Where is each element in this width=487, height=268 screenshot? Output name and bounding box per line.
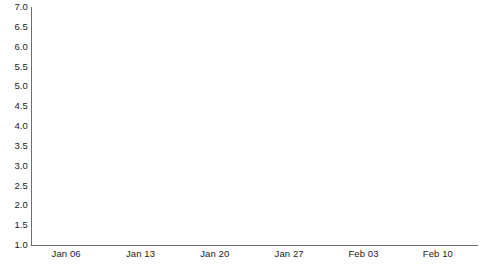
y-axis-tick-label: 6.5: [0, 22, 28, 32]
y-axis-tick-label: 5.0: [0, 81, 28, 91]
x-axis-tick-label: Feb 10: [410, 248, 466, 260]
x-axis-tick-label: Jan 13: [113, 248, 169, 260]
x-axis-tick-label: Jan 27: [261, 248, 317, 260]
y-axis-line: [31, 7, 32, 246]
plot-area: [32, 7, 478, 245]
data-series-layer: [32, 7, 478, 245]
x-axis-tick-label: Jan 06: [38, 248, 94, 260]
y-axis-tick-label: 2.5: [0, 181, 28, 191]
y-axis-tick-label: 4.5: [0, 101, 28, 111]
y-axis-tick-label: 2.0: [0, 200, 28, 210]
chart-figure: 7.06.56.05.55.04.54.03.53.02.52.01.51.0 …: [0, 0, 487, 268]
y-axis-tick-label: 6.0: [0, 42, 28, 52]
x-axis-tick-label: Feb 03: [336, 248, 392, 260]
y-axis-tick-label: 4.0: [0, 121, 28, 131]
y-axis-tick-labels: 7.06.56.05.55.04.54.03.53.02.52.01.51.0: [0, 0, 28, 268]
y-axis-tick-label: 5.5: [0, 62, 28, 72]
y-axis-tick-label: 3.0: [0, 161, 28, 171]
x-axis-tick-label: Jan 20: [187, 248, 243, 260]
y-axis-tick-label: 3.5: [0, 141, 28, 151]
y-axis-tick-label: 7.0: [0, 2, 28, 12]
y-axis-tick-label: 1.5: [0, 220, 28, 230]
x-axis-tick-labels: Jan 06Jan 13Jan 20Jan 27Feb 03Feb 10: [0, 248, 487, 262]
x-axis-line: [31, 245, 478, 246]
